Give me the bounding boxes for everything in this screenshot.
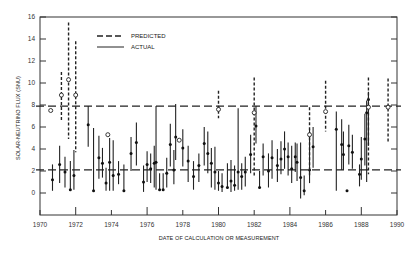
actual-point bbox=[165, 172, 168, 175]
actual-point bbox=[181, 146, 184, 149]
x-tick-label: 1976 bbox=[140, 221, 155, 228]
actual-point bbox=[187, 160, 190, 163]
actual-point bbox=[135, 141, 138, 144]
actual-point bbox=[69, 188, 72, 191]
y-tick-label: 14 bbox=[28, 35, 36, 42]
actual-point bbox=[51, 178, 54, 181]
actual-point bbox=[92, 189, 95, 192]
actual-point bbox=[105, 182, 108, 185]
predicted-point bbox=[252, 111, 256, 115]
actual-point bbox=[340, 143, 343, 146]
predicted-point bbox=[59, 93, 63, 97]
actual-point bbox=[172, 168, 175, 171]
reference-lines bbox=[36, 106, 401, 170]
predicted-point bbox=[366, 105, 370, 109]
y-tick-label: 16 bbox=[28, 13, 36, 20]
actual-point bbox=[346, 189, 349, 192]
legend: PREDICTED ACTUAL bbox=[97, 33, 166, 50]
actual-point bbox=[290, 167, 293, 170]
predicted-point bbox=[177, 138, 181, 142]
actual-point bbox=[122, 189, 125, 192]
actual-point bbox=[312, 145, 315, 148]
actual-point bbox=[162, 188, 165, 191]
actual-point bbox=[262, 155, 265, 158]
actual-point bbox=[342, 153, 345, 156]
actual-point bbox=[244, 171, 247, 174]
actual-point bbox=[158, 188, 161, 191]
actual-point bbox=[149, 167, 152, 170]
actual-point bbox=[210, 162, 213, 165]
actual-point bbox=[203, 142, 206, 145]
actual-point bbox=[146, 163, 149, 166]
actual-point bbox=[117, 173, 120, 176]
predicted-point bbox=[67, 78, 71, 82]
actual-point bbox=[192, 175, 195, 178]
actual-point bbox=[240, 175, 243, 178]
y-tick-label: 0 bbox=[31, 189, 35, 196]
predicted-point bbox=[217, 107, 221, 111]
predicted-series bbox=[49, 23, 390, 177]
predicted-point bbox=[49, 109, 53, 113]
legend-actual-label: ACTUAL bbox=[131, 44, 155, 50]
solar-neutrino-chart: 0246810121416 19701972197419761978198019… bbox=[0, 0, 418, 253]
x-tick-label: 1984 bbox=[283, 221, 298, 228]
actual-point bbox=[197, 164, 200, 167]
actual-point bbox=[112, 174, 115, 177]
actual-point bbox=[294, 155, 297, 158]
actual-point bbox=[142, 181, 145, 184]
actual-point bbox=[237, 171, 240, 174]
actual-point bbox=[229, 179, 232, 182]
x-tick-label: 1974 bbox=[104, 221, 119, 228]
actual-point bbox=[360, 157, 363, 160]
x-axis-ticks: 1970197219741976197819801982198419861988… bbox=[33, 207, 405, 228]
actual-point bbox=[299, 176, 302, 179]
predicted-point bbox=[324, 110, 328, 114]
actual-point bbox=[279, 157, 282, 160]
actual-point bbox=[258, 186, 261, 189]
actual-point bbox=[72, 174, 75, 177]
actual-point bbox=[358, 173, 361, 176]
actual-point bbox=[365, 111, 368, 114]
x-tick-label: 1986 bbox=[318, 221, 333, 228]
actual-point bbox=[108, 161, 111, 164]
x-tick-label: 1980 bbox=[211, 221, 226, 228]
actual-point bbox=[101, 162, 104, 165]
actual-point bbox=[267, 170, 270, 173]
actual-point bbox=[217, 182, 220, 185]
actual-point bbox=[283, 148, 286, 151]
actual-point bbox=[271, 156, 274, 159]
legend-predicted-label: PREDICTED bbox=[131, 33, 166, 39]
x-tick-label: 1990 bbox=[390, 221, 405, 228]
x-tick-label: 1978 bbox=[176, 221, 191, 228]
actual-point bbox=[276, 164, 279, 167]
y-tick-label: 6 bbox=[31, 123, 35, 130]
actual-point bbox=[347, 144, 350, 147]
actual-point bbox=[130, 152, 133, 155]
actual-point bbox=[233, 184, 236, 187]
actual-point bbox=[303, 189, 306, 192]
predicted-point bbox=[386, 105, 390, 109]
actual-point bbox=[97, 156, 100, 159]
actual-point bbox=[206, 152, 209, 155]
predicted-point bbox=[106, 133, 110, 137]
y-tick-label: 2 bbox=[31, 167, 35, 174]
actual-point bbox=[58, 163, 61, 166]
y-axis-title: SOLAR-NEUTRINO FLUX (SNU) bbox=[15, 76, 21, 160]
actual-point bbox=[296, 161, 299, 164]
x-tick-label: 1972 bbox=[68, 221, 83, 228]
x-tick-label: 1988 bbox=[354, 221, 369, 228]
actual-point bbox=[155, 161, 158, 164]
actual-point bbox=[335, 128, 338, 131]
y-tick-label: 10 bbox=[28, 79, 36, 86]
actual-point bbox=[213, 171, 216, 174]
actual-point bbox=[87, 123, 90, 126]
actual-point bbox=[221, 185, 224, 188]
actual-point bbox=[169, 143, 172, 146]
actual-point bbox=[249, 153, 252, 156]
x-tick-label: 1982 bbox=[247, 221, 262, 228]
actual-point bbox=[254, 124, 257, 127]
actual-point bbox=[363, 138, 366, 141]
predicted-point bbox=[308, 133, 312, 137]
y-tick-label: 12 bbox=[28, 57, 36, 64]
x-tick-label: 1970 bbox=[33, 221, 48, 228]
